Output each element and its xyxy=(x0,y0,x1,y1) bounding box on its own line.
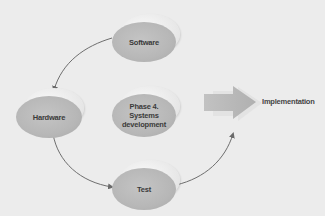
arrow-hardware-to-test xyxy=(53,134,112,187)
implementation-label: Implementation xyxy=(262,97,315,106)
node-label-hardware: Hardware xyxy=(33,113,66,122)
node-ellipse: Software xyxy=(112,22,176,62)
node-phase4: Phase 4. Systems development xyxy=(112,86,184,138)
node-hardware: Hardware xyxy=(16,88,88,138)
block-arrow-icon xyxy=(204,86,262,121)
node-test: Test xyxy=(112,160,184,212)
node-label-software: Software xyxy=(129,38,159,47)
node-label-test: Test xyxy=(137,185,151,194)
node-label-phase4-line3: development xyxy=(122,120,166,129)
arrow-test-to-implementation xyxy=(176,134,233,185)
diagram-canvas: Software Hardware Phase 4. Systems devel… xyxy=(0,0,325,216)
node-software: Software xyxy=(112,14,184,64)
node-label-phase4-line2: Systems xyxy=(129,111,158,120)
node-ellipse: Hardware xyxy=(16,96,82,138)
arrow-software-to-hardware xyxy=(54,38,112,90)
node-ellipse: Test xyxy=(112,168,176,210)
node-label-phase4-line1: Phase 4. xyxy=(130,102,159,111)
node-ellipse: Phase 4. Systems development xyxy=(112,94,176,137)
